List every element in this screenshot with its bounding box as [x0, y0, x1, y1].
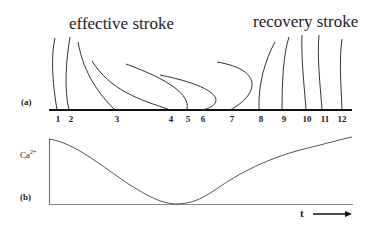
position-label-3: 3: [115, 115, 120, 124]
position-label-11: 11: [321, 115, 330, 124]
effective-stroke-label: effective stroke: [69, 15, 174, 32]
cilium-2: [66, 37, 70, 110]
panel-b-tag: (b): [20, 193, 31, 202]
cilium-9: [282, 37, 289, 109]
position-label-4: 4: [169, 115, 174, 124]
position-label-5: 5: [186, 115, 191, 124]
cilium-12: [340, 39, 342, 109]
calcium-curve: [49, 137, 352, 204]
cilium-6: [160, 75, 216, 110]
position-label-2: 2: [69, 115, 74, 124]
calcium-symbol: Ca: [20, 150, 30, 160]
time-axis-label: t: [300, 208, 304, 219]
cilium-4: [92, 61, 168, 109]
cilium-5: [126, 64, 187, 109]
calcium-charge: 2+: [30, 149, 36, 155]
cilium-8: [259, 42, 275, 109]
position-label-7: 7: [230, 115, 235, 124]
position-label-1: 1: [56, 115, 61, 124]
cilium-7: [217, 62, 252, 110]
position-label-9: 9: [282, 115, 287, 124]
panel-a-tag: (a): [21, 98, 32, 107]
cilia-shapes: [53, 35, 342, 110]
position-label-6: 6: [201, 115, 206, 124]
cilium-10: [302, 35, 306, 109]
position-label-12: 12: [338, 115, 347, 124]
recovery-stroke-label: recovery stroke: [253, 13, 358, 30]
position-label-10: 10: [303, 115, 312, 124]
cilium-3: [78, 42, 115, 110]
calcium-axis-label: Ca2+: [20, 149, 36, 160]
cilia-beat-diagram: effective stroke recovery stroke (a) 1 2…: [0, 0, 369, 230]
right-arrow-icon: [345, 211, 352, 217]
cilium-1: [53, 38, 57, 110]
position-label-8: 8: [259, 115, 264, 124]
cilium-11: [318, 35, 322, 109]
